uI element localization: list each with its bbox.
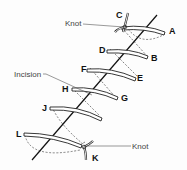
stitch-f-e — [87, 69, 136, 81]
point-d-label: D — [99, 45, 106, 55]
incision-label: Incision — [14, 70, 41, 79]
point-a-label: A — [169, 26, 176, 36]
stitch-d-b — [107, 50, 148, 59]
point-j-label: J — [42, 103, 47, 113]
knot-top-callout — [83, 24, 124, 27]
point-l-label: L — [16, 129, 22, 139]
point-k-label: K — [92, 153, 99, 163]
knot-top-label: Knot — [65, 19, 82, 28]
stitch-j — [50, 107, 102, 121]
point-b-label: B — [151, 53, 158, 63]
stitch-h-g — [72, 88, 118, 100]
suture-diagram: Knot Incision Knot C A D B F E H G J L K — [0, 0, 187, 170]
point-g-label: G — [121, 93, 128, 103]
stitch-c-a — [122, 26, 165, 35]
knot-bottom-label: Knot — [132, 142, 149, 151]
point-e-label: E — [137, 73, 143, 83]
point-c-label: C — [116, 10, 123, 20]
point-f-label: F — [81, 64, 87, 74]
point-h-label: H — [62, 84, 69, 94]
